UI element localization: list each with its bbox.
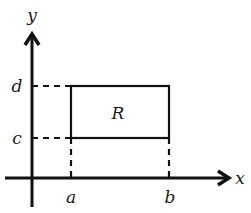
tick-label-a: a (66, 187, 76, 207)
rectangular-region-diagram: y x d c a b R (0, 0, 251, 213)
y-axis-label: y (26, 5, 37, 25)
region-label: R (111, 103, 125, 123)
tick-label-d: d (12, 76, 23, 96)
tick-label-b: b (165, 187, 176, 207)
diagram-canvas: y x d c a b R (0, 0, 251, 213)
x-axis-label: x (235, 168, 245, 188)
tick-label-c: c (12, 128, 22, 148)
